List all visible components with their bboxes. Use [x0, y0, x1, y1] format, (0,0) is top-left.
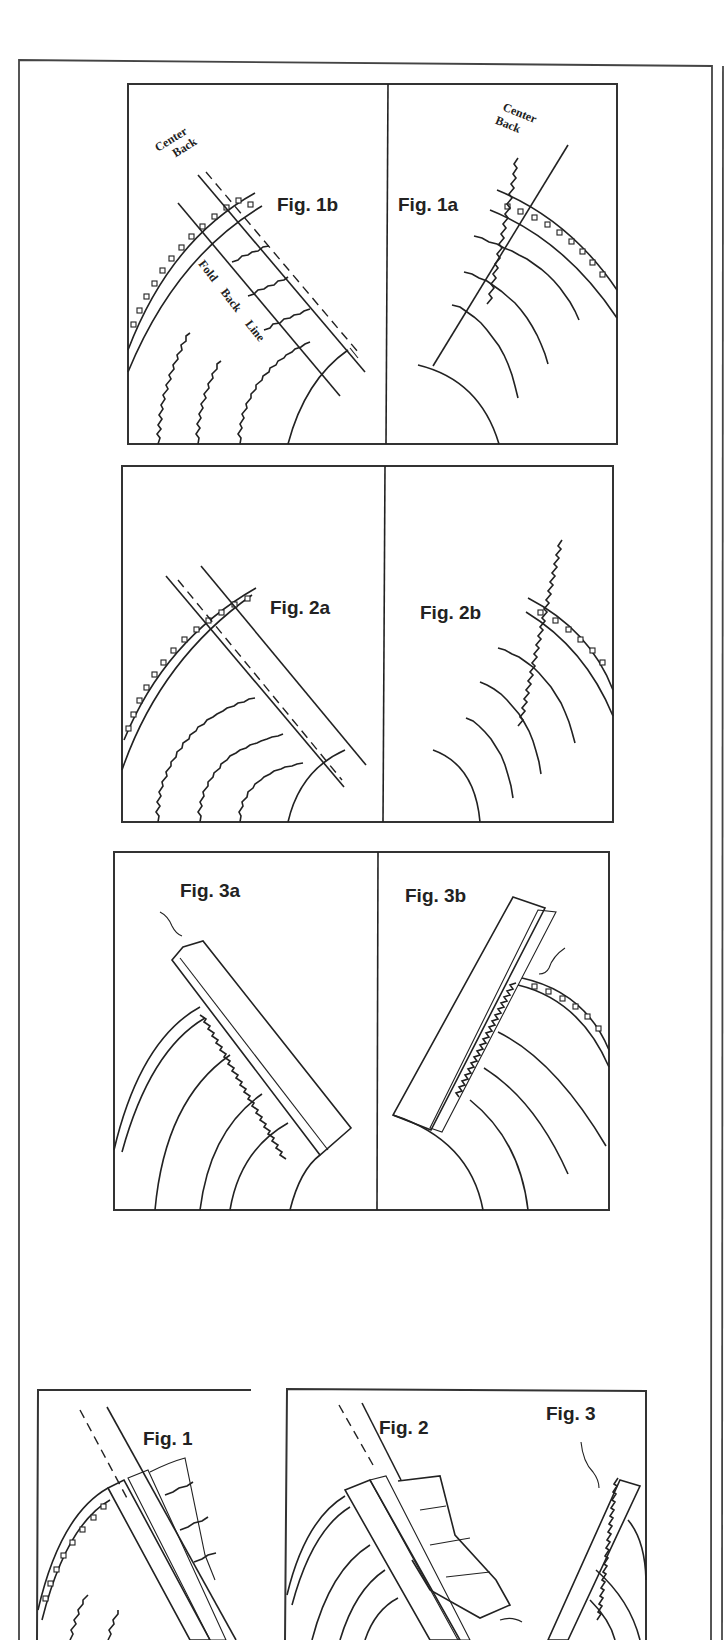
panel-fig-2a: Fig. 2a	[122, 566, 366, 822]
panel-divider	[377, 852, 378, 1210]
center-back-label-1b: Center Back	[152, 122, 199, 166]
panel-divider	[386, 84, 388, 444]
svg-text:Back: Back	[218, 286, 245, 315]
fig-1-label: Fig. 1	[143, 1428, 193, 1449]
panel-divider	[383, 466, 385, 822]
figure-row-3: Fig. 3a Fig. 3b	[114, 852, 609, 1210]
figure-row-2: Fig. 2a	[122, 466, 613, 822]
illustration-page: Fig. 1b Center Back	[0, 0, 725, 1640]
center-back-label-1a: Center Back	[493, 99, 539, 140]
fig-2b-label: Fig. 2b	[420, 602, 481, 623]
fig-1a-label: Fig. 1a	[398, 194, 459, 215]
elastic-squares	[126, 596, 250, 731]
fig-1b-label: Fig. 1b	[277, 194, 338, 215]
fold-back-line-label: Fold Back Line	[196, 257, 269, 344]
elastic-squares	[532, 984, 601, 1031]
figure-row-4: Fig. 1 Fig. 2	[37, 1389, 646, 1640]
fig-2-label: Fig. 2	[379, 1417, 429, 1438]
panel-fig-1a: Fig. 1a Center Back	[398, 99, 617, 444]
elastic-squares	[505, 204, 605, 277]
fig-3a-label: Fig. 3a	[180, 880, 241, 901]
svg-text:Line: Line	[242, 317, 268, 345]
panel-fig-3: Fig. 3	[500, 1403, 646, 1640]
figure-row-1: Fig. 1b Center Back	[128, 84, 617, 444]
fig-3-label: Fig. 3	[546, 1403, 596, 1424]
panel-fig-2: Fig. 2	[287, 1403, 510, 1640]
panel-fig-2b: Fig. 2b	[420, 540, 613, 822]
panel-fig-1b: Fig. 1b Center Back	[128, 122, 365, 444]
svg-text:Fold: Fold	[196, 257, 222, 284]
fig-2a-label: Fig. 2a	[270, 597, 331, 618]
panel-fig-3a: Fig. 3a	[114, 880, 351, 1210]
fig-3b-label: Fig. 3b	[405, 885, 466, 906]
panel-fig-1: Fig. 1	[38, 1407, 236, 1640]
figure-box-3	[114, 852, 609, 1210]
panel-fig-3b: Fig. 3b	[393, 885, 609, 1210]
